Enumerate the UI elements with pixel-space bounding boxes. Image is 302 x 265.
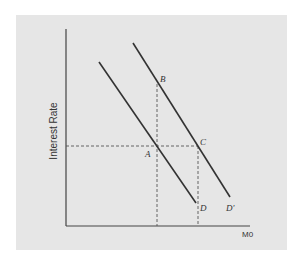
curve-label-D-prime: D' [225, 203, 235, 213]
x-axis-label: M0 [242, 230, 254, 239]
demand-curve-D-prime [133, 43, 230, 197]
point-label-B: B [160, 74, 166, 84]
demand-curve-D [99, 62, 196, 203]
point-label-A: A [144, 149, 151, 159]
money-demand-diagram: Interest Rate M0 A B C D D' [0, 0, 302, 265]
y-axis-label: Interest Rate [48, 102, 59, 160]
point-label-C: C [200, 137, 207, 147]
curve-label-D: D [199, 203, 207, 213]
